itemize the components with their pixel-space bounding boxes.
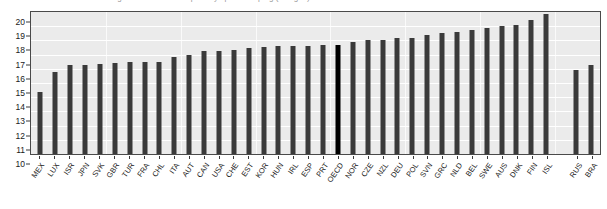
x-axis-tick-label: NLD xyxy=(448,161,464,179)
x-axis-tick-mark xyxy=(114,156,115,159)
x-axis-tick-mark xyxy=(204,156,205,159)
x-axis-slot: DEU xyxy=(390,156,405,209)
x-axis-tick-mark xyxy=(248,156,249,159)
bar-slot xyxy=(107,12,122,154)
bar-slot xyxy=(137,12,152,154)
bar xyxy=(276,46,281,154)
bar-slot xyxy=(331,12,346,154)
bar xyxy=(68,65,73,154)
chart-figure: Average number of hours per day spent sl… xyxy=(0,0,607,209)
bar-slot xyxy=(345,12,360,154)
bar xyxy=(53,72,58,154)
x-axis-slot: DNK xyxy=(510,156,525,209)
bar xyxy=(365,40,370,154)
x-axis-tick-label: CHE xyxy=(224,161,241,179)
bar-slot xyxy=(539,12,554,154)
bar-slot xyxy=(167,12,182,154)
bar-slot xyxy=(78,12,93,154)
bar xyxy=(395,38,400,154)
x-axis-tick-label: MEX xyxy=(30,161,47,180)
x-axis-slot: SVK xyxy=(92,156,107,209)
x-axis-tick-mark xyxy=(383,156,384,159)
x-axis-tick-label: NOR xyxy=(343,161,360,180)
x-axis-tick-mark xyxy=(189,156,190,159)
bar-slot xyxy=(569,12,584,154)
bar-slot xyxy=(464,12,479,154)
x-axis-tick-mark xyxy=(69,156,70,159)
x-axis-slot: RUS xyxy=(569,156,584,209)
bar-slot xyxy=(420,12,435,154)
x-axis-slot: TUR xyxy=(122,156,137,209)
bar-slot xyxy=(390,12,405,154)
x-axis-slot: FIN xyxy=(524,156,539,209)
x-axis-slot: JPN xyxy=(77,156,92,209)
y-axis-tick-label: 13 xyxy=(1,116,25,126)
x-axis-slot: CZE xyxy=(360,156,375,209)
x-axis-tick-mark xyxy=(129,156,130,159)
bar xyxy=(187,55,192,154)
x-axis-tick-label: POL xyxy=(404,161,420,179)
x-axis-tick-label: NZL xyxy=(374,161,390,178)
bar xyxy=(142,62,147,154)
bar xyxy=(454,32,459,154)
bar-slot xyxy=(450,12,465,154)
x-axis-tick-mark xyxy=(39,156,40,159)
y-axis-tick-label: 16 xyxy=(1,74,25,84)
bar xyxy=(202,51,207,154)
x-axis-tick-mark xyxy=(233,156,234,159)
x-axis-slot: POL xyxy=(405,156,420,209)
x-axis-tick-mark xyxy=(54,156,55,159)
x-axis-slot: FRA xyxy=(136,156,151,209)
x-axis-tick-mark xyxy=(159,156,160,159)
x-axis-tick-mark xyxy=(502,156,503,159)
x-axis-tick-mark xyxy=(99,156,100,159)
plot-area xyxy=(30,11,601,155)
x-axis-tick-label: IRL xyxy=(286,161,300,176)
bar-slot xyxy=(479,12,494,154)
x-axis-slot xyxy=(554,156,569,209)
x-axis-tick-label: CAN xyxy=(194,161,211,179)
bar-slot xyxy=(33,12,48,154)
x-axis-tick-label: AUS xyxy=(493,161,509,179)
bar-slot xyxy=(197,12,212,154)
x-axis-tick-label: SWE xyxy=(477,161,494,180)
x-axis-tick-label: RUS xyxy=(567,161,584,179)
bar-slot xyxy=(271,12,286,154)
x-axis-slot: IRL xyxy=(286,156,301,209)
bar xyxy=(246,48,251,155)
bar-slot xyxy=(435,12,450,154)
bar xyxy=(97,64,102,154)
x-axis-tick-label: ISR xyxy=(62,161,77,177)
x-axis-tick-label: DEU xyxy=(388,161,405,179)
x-axis-tick-mark xyxy=(323,156,324,159)
x-axis-tick-mark xyxy=(592,156,593,159)
bar xyxy=(514,25,519,154)
bar xyxy=(529,20,534,154)
bar xyxy=(83,65,88,154)
chart-title-text: Average number of hours per day spent sl… xyxy=(96,0,310,2)
x-axis-tick-label: ISL xyxy=(540,161,554,176)
bar-slot xyxy=(509,12,524,154)
y-axis-tick-label: 15 xyxy=(1,88,25,98)
x-axis-slot: PRT xyxy=(316,156,331,209)
x-axis-slot: CHL xyxy=(151,156,166,209)
x-axis-slot: GRC xyxy=(435,156,450,209)
y-axis-tick-label: 11 xyxy=(1,145,25,155)
bar xyxy=(261,47,266,154)
x-axis-slot: LUX xyxy=(47,156,62,209)
x-axis-tick-mark xyxy=(547,156,548,159)
x-axis-slot: NLD xyxy=(450,156,465,209)
x-axis-tick-mark xyxy=(308,156,309,159)
bar-slot xyxy=(152,12,167,154)
bar-slot xyxy=(316,12,331,154)
bar-slot xyxy=(226,12,241,154)
x-axis-slot: ESP xyxy=(301,156,316,209)
y-axis-tick-label: 18 xyxy=(1,45,25,55)
x-axis-tick-mark xyxy=(84,156,85,159)
bar xyxy=(231,50,236,154)
x-axis-tick-mark xyxy=(174,156,175,159)
x-axis-tick-mark xyxy=(532,156,533,159)
x-axis-tick-label: SVK xyxy=(90,161,106,179)
x-axis-tick-label: GRC xyxy=(433,161,450,180)
chart-title-clipped: Average number of hours per day spent sl… xyxy=(0,0,607,7)
